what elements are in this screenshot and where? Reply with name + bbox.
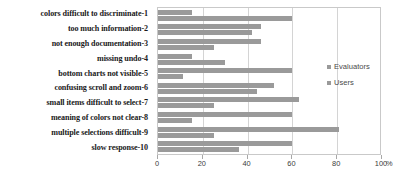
category-label: slow response-10	[0, 140, 152, 155]
bar-evaluators	[158, 97, 299, 102]
category-label: meaning of colors not clear-8	[0, 111, 152, 126]
bar-chart: colors difficult to discriminate-1 too m…	[0, 0, 408, 192]
bar-users	[158, 60, 225, 65]
x-axis-unit: %	[386, 159, 393, 168]
bar-users	[158, 89, 257, 94]
legend-item-evaluators: Evaluators	[327, 62, 393, 71]
chart-legend: Evaluators Users	[327, 62, 393, 87]
category-label: missing undo-4	[0, 51, 152, 66]
axis-tick-label: 40	[242, 159, 250, 168]
category-axis-labels: colors difficult to discriminate-1 too m…	[0, 7, 152, 155]
bar-evaluators	[158, 112, 292, 117]
legend-item-users: Users	[327, 78, 393, 87]
bar-users	[158, 103, 214, 108]
legend-label: Users	[334, 78, 354, 87]
bar-group	[158, 96, 380, 111]
bar-group	[158, 8, 380, 23]
bar-users	[158, 16, 292, 21]
bar-group	[158, 37, 380, 52]
category-label: not enough documentation-3	[0, 37, 152, 52]
bar-users	[158, 45, 214, 50]
bar-users	[158, 74, 183, 79]
bar-users	[158, 133, 214, 138]
bar-group	[158, 139, 380, 154]
bar-group	[158, 125, 380, 140]
x-axis: 020406080100	[157, 155, 381, 171]
bar-group	[158, 110, 380, 125]
axis-tick-label: 20	[198, 159, 206, 168]
bar-evaluators	[158, 127, 339, 132]
bar-users	[158, 30, 252, 35]
axis-tick-label: 80	[332, 159, 340, 168]
category-label: colors difficult to discriminate-1	[0, 7, 152, 22]
legend-swatch-icon	[327, 65, 331, 69]
legend-swatch-icon	[327, 81, 331, 85]
category-label: confusing scroll and zoom-6	[0, 81, 152, 96]
bar-evaluators	[158, 10, 192, 15]
axis-tick-label: 0	[155, 159, 159, 168]
bar-users	[158, 118, 192, 123]
category-label: bottom charts not visible-5	[0, 66, 152, 81]
bar-users	[158, 147, 239, 152]
bar-evaluators	[158, 24, 261, 29]
category-label: too much information-2	[0, 22, 152, 37]
legend-label: Evaluators	[334, 62, 370, 71]
bar-evaluators	[158, 83, 274, 88]
category-label: small items difficult to select-7	[0, 96, 152, 111]
bar-evaluators	[158, 141, 292, 146]
category-label: multiple selections difficult-9	[0, 125, 152, 140]
axis-tick-label: 60	[287, 159, 295, 168]
bar-evaluators	[158, 54, 192, 59]
bar-evaluators	[158, 68, 292, 73]
bar-group	[158, 23, 380, 38]
bar-evaluators	[158, 39, 261, 44]
